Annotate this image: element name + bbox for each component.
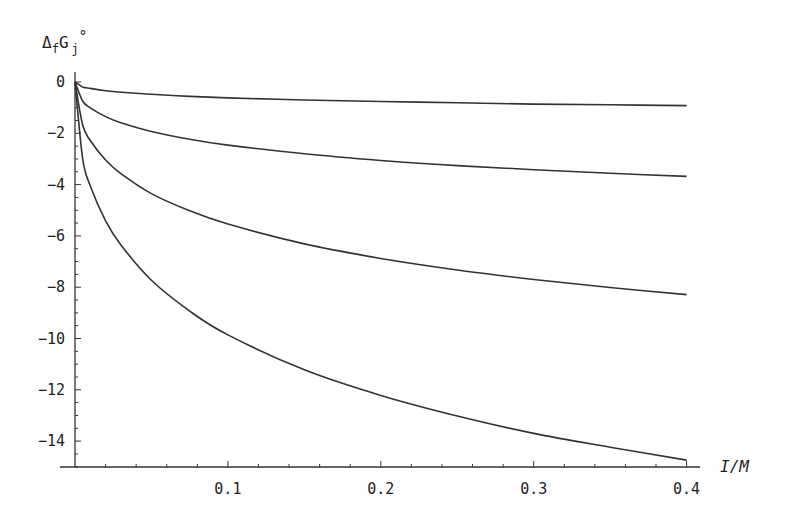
y-tick-label: −6 [47, 227, 65, 245]
curve-1 [75, 82, 687, 106]
y-tick-label: −10 [38, 330, 65, 348]
x-tick-label: 0.4 [673, 480, 700, 498]
curve-4 [75, 82, 687, 460]
y-tick-label: −12 [38, 381, 65, 399]
y-tick-label: −14 [38, 432, 65, 450]
curve-3 [75, 82, 687, 295]
y-tick-label: 0 [56, 73, 65, 91]
x-tick-label: 0.3 [520, 480, 547, 498]
y-tick-label: −8 [47, 278, 65, 296]
svg-text:ΔfGj°: ΔfGj° [42, 28, 87, 56]
x-tick-label: 0.1 [214, 480, 241, 498]
curve-2 [75, 82, 687, 176]
curves [75, 82, 687, 460]
y-tick-label: −2 [47, 124, 65, 142]
line-chart: ΔfGj° 0−2−4−6−8−10−12−14 0.10.20.30.4 I/… [0, 0, 785, 521]
y-title-sub-j: j [72, 42, 79, 56]
y-title-G: G [59, 33, 69, 52]
y-title-degree: ° [79, 28, 87, 44]
y-axis-title: ΔfGj° [42, 28, 87, 56]
axes [60, 72, 700, 467]
x-axis-title: I/M [720, 457, 750, 476]
y-title-sub-f: f [52, 42, 59, 56]
x-tick-label: 0.2 [367, 480, 394, 498]
y-title-delta: Δ [42, 33, 52, 52]
y-tick-label: −4 [47, 176, 65, 194]
